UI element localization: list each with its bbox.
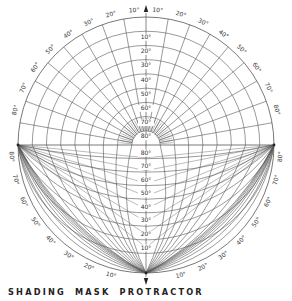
fine-radial [160, 143, 173, 144]
rim-label-upper-left: 20° [105, 9, 117, 19]
altitude-label: 20° [141, 47, 152, 54]
vsa-center-label: 50° [141, 189, 152, 196]
azimuth-line [153, 34, 210, 133]
ray-left [18, 145, 146, 196]
rim-label-upper-left: 60° [29, 61, 41, 74]
ray-left [18, 145, 146, 247]
azimuth-line [82, 34, 139, 133]
rim-label-upper-right: 40° [218, 28, 231, 40]
altitude-label: 60° [141, 104, 152, 111]
vsa-center-label: 60° [141, 176, 152, 183]
rim-label-upper-left: 30° [82, 16, 95, 27]
vsa-center-label: 30° [141, 216, 152, 223]
vsa-center-label: 80° [141, 149, 152, 156]
vsa-center-label: 70° [141, 162, 152, 169]
horizon-point-right [273, 144, 276, 147]
meridian-curve [146, 145, 260, 273]
fine-radial [119, 143, 132, 144]
rim-label-upper-left: 50° [44, 43, 56, 55]
ray-right [146, 145, 274, 247]
shading-mask-protractor: 10°20°30°40°50°60°70°80°10°10°20°20°30°3… [0, 0, 292, 301]
rim-label-lower-left: 80° [8, 151, 16, 162]
ray-left [18, 145, 146, 222]
rim-label-lower-right: 10° [175, 270, 187, 280]
altitude-label: 70° [141, 118, 152, 125]
vsa-center-label: 10° [141, 244, 152, 251]
north-arrow-icon [144, 5, 148, 12]
rim-label-lower-left: 60° [19, 195, 30, 208]
rim-label-upper-right: 70° [264, 81, 275, 94]
ray-right [146, 145, 274, 196]
rim-label-upper-right: 80° [272, 104, 282, 116]
rim-label-upper-left: 10° [129, 6, 140, 14]
altitude-label: 30° [141, 61, 152, 68]
diagram-title: SHADING MASK PROTRACTOR [0, 287, 292, 297]
azimuth-line [20, 123, 132, 143]
ray-right [146, 145, 274, 171]
ray-right [146, 145, 274, 222]
rim-label-lower-right: 70° [271, 174, 281, 186]
rim-label-upper-left: 70° [17, 81, 28, 94]
altitude-label: 10° [141, 33, 152, 40]
rim-label-upper-right: 30° [197, 16, 210, 27]
rim-label-lower-right: 20° [196, 261, 209, 272]
rim-label-upper-left: 40° [62, 28, 75, 40]
rim-label-lower-left: 10° [105, 270, 117, 280]
rim-label-lower-left: 70° [12, 174, 22, 186]
meridian-curve [146, 145, 246, 273]
rim-label-upper-right: 50° [236, 43, 248, 55]
azimuth-line [158, 81, 257, 138]
azimuth-line [160, 123, 272, 143]
meridian-curve [32, 145, 146, 273]
rim-label-upper-right: 10° [152, 6, 163, 14]
meridian-curve [46, 145, 146, 273]
altitude-label: 80° [141, 132, 152, 139]
rim-label-lower-right: 60° [262, 195, 273, 208]
altitude-label: 40° [141, 76, 152, 83]
vsa-center-label: 40° [141, 203, 152, 210]
ray-right [146, 145, 274, 158]
vsa-center-label: 20° [141, 230, 152, 237]
rim-label-lower-right: 80° [276, 151, 284, 162]
ray-left [18, 145, 146, 158]
azimuth-line [35, 81, 134, 138]
rim-label-upper-right: 60° [251, 61, 263, 74]
altitude-label: 50° [141, 90, 152, 97]
bottom-point [145, 272, 148, 275]
south-arrow-icon [144, 278, 148, 285]
rim-label-upper-right: 20° [175, 9, 187, 19]
horizon-point-left [17, 144, 20, 147]
rim-label-upper-left: 80° [10, 104, 20, 116]
rim-label-lower-left: 20° [83, 261, 96, 272]
ray-left [18, 145, 146, 171]
